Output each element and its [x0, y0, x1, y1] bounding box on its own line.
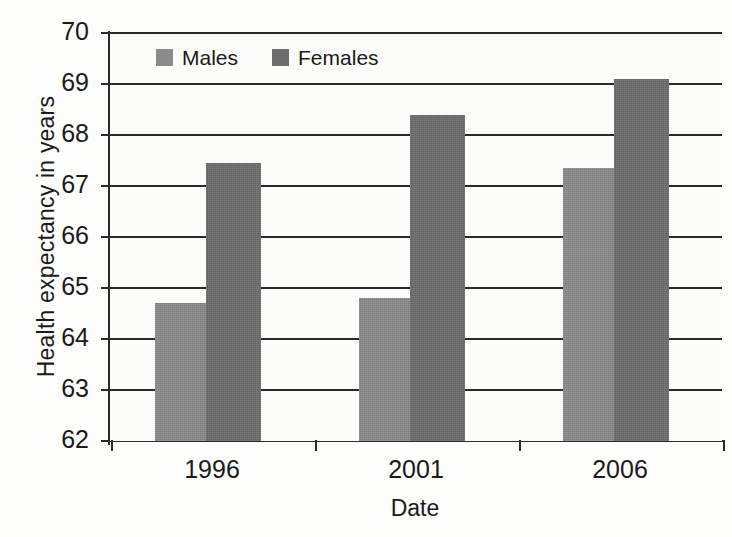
y-tick-label: 67 — [29, 170, 89, 199]
y-tick-mark — [101, 287, 110, 289]
legend-swatch-icon-males — [156, 49, 173, 66]
x-tick-mark — [723, 440, 725, 451]
y-tick-mark — [101, 236, 110, 238]
legend-entry-females: Females — [272, 47, 379, 68]
x-tick-mark — [315, 440, 317, 451]
y-tick-mark — [101, 389, 110, 391]
y-tick-mark — [101, 185, 110, 187]
bar-males-2006 — [563, 168, 614, 441]
y-tick-mark — [101, 32, 110, 34]
bar-females-1996 — [206, 163, 261, 441]
x-tick-mark — [519, 440, 521, 451]
y-tick-label: 63 — [29, 374, 89, 403]
plot-area: 626364656667686970 Males Females — [110, 33, 722, 441]
y-tick-label: 66 — [29, 221, 89, 250]
bar-females-2001 — [410, 115, 465, 441]
legend-label-males: Males — [182, 47, 238, 68]
y-tick-mark — [101, 440, 110, 442]
y-tick-mark — [101, 134, 110, 136]
legend-entry-males: Males — [156, 47, 238, 68]
x-tick-label-2006: 2006 — [540, 455, 700, 484]
y-tick-mark — [101, 83, 110, 85]
y-tick-label: 65 — [29, 272, 89, 301]
y-tick-label: 69 — [29, 68, 89, 97]
y-tick-label: 70 — [29, 17, 89, 46]
bar-females-2006 — [614, 79, 669, 441]
legend-swatch-icon-females — [272, 49, 289, 66]
y-tick-mark — [101, 338, 110, 340]
y-tick-label: 62 — [29, 425, 89, 454]
gridline — [110, 32, 722, 34]
x-axis-title: Date — [105, 495, 725, 522]
bar-chart: Health expectancy in years 6263646566676… — [0, 0, 732, 537]
x-tick-mark — [111, 440, 113, 451]
y-tick-label: 64 — [29, 323, 89, 352]
bar-males-2001 — [359, 298, 410, 441]
legend: Males Females — [156, 47, 379, 68]
bar-males-1996 — [155, 303, 206, 441]
y-tick-label: 68 — [29, 119, 89, 148]
x-tick-label-2001: 2001 — [336, 455, 496, 484]
legend-label-females: Females — [298, 47, 379, 68]
x-tick-label-1996: 1996 — [132, 455, 292, 484]
